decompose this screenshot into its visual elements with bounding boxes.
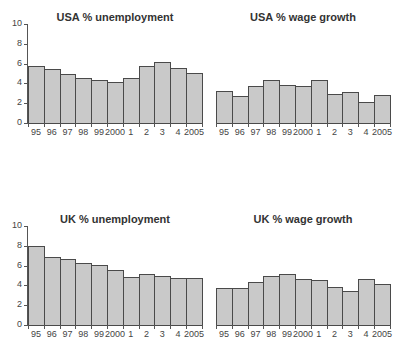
bar	[311, 280, 328, 326]
bar	[75, 263, 92, 326]
chart-title: UK % wage growth	[253, 213, 352, 225]
bar	[139, 274, 156, 326]
bar	[311, 80, 328, 124]
bar	[216, 288, 233, 326]
bar	[263, 80, 280, 124]
bar	[60, 259, 77, 326]
x-tick-label: 2005	[370, 127, 394, 137]
y-tick	[24, 123, 27, 124]
bar	[248, 282, 265, 326]
bar	[139, 66, 156, 124]
y-tick-label: 6	[8, 58, 22, 68]
bar	[123, 78, 140, 124]
y-tick-label: 6	[8, 260, 22, 270]
bar	[216, 91, 233, 124]
chart-title: USA % unemployment	[57, 11, 174, 23]
bar	[279, 85, 296, 124]
bar	[28, 66, 45, 124]
y-tick	[24, 325, 27, 326]
y-tick	[24, 64, 27, 65]
y-tick-label: 10	[8, 220, 22, 230]
y-tick	[24, 103, 27, 104]
bar	[91, 80, 108, 124]
y-tick	[24, 285, 27, 286]
bar	[327, 287, 344, 326]
bar	[263, 276, 280, 327]
y-tick-label: 2	[8, 299, 22, 309]
bar	[295, 86, 312, 124]
y-tick-label: 10	[8, 18, 22, 28]
bar	[154, 62, 171, 124]
y-tick-label: 4	[8, 279, 22, 289]
y-tick-label: 0	[8, 319, 22, 329]
bar	[374, 95, 391, 124]
y-tick-label: 8	[8, 38, 22, 48]
y-tick	[24, 305, 27, 306]
bar	[186, 73, 203, 124]
bar	[107, 82, 124, 124]
x-tick-label: 2005	[182, 329, 206, 339]
y-tick-label: 8	[8, 240, 22, 250]
bar	[91, 265, 108, 326]
bar	[44, 69, 61, 124]
bar	[75, 78, 92, 124]
bar	[123, 277, 140, 326]
y-tick-label: 4	[8, 77, 22, 87]
bar	[28, 246, 45, 326]
y-tick	[24, 24, 27, 25]
bar	[232, 288, 249, 326]
x-tick-label: 2005	[370, 329, 394, 339]
bar	[327, 94, 344, 124]
bar	[342, 291, 359, 326]
bar	[186, 278, 203, 326]
chart-title: USA % wage growth	[250, 11, 356, 23]
y-tick	[24, 83, 27, 84]
bar	[358, 102, 375, 124]
y-tick-label: 2	[8, 97, 22, 107]
bar	[279, 274, 296, 326]
y-tick-label: 0	[8, 117, 22, 127]
bar	[342, 92, 359, 124]
bar	[358, 279, 375, 326]
bar	[44, 257, 61, 326]
bar	[170, 68, 187, 124]
bar	[248, 86, 265, 124]
bar	[232, 96, 249, 124]
bar	[374, 284, 391, 326]
bar	[107, 270, 124, 326]
chart-title: UK % unemployment	[60, 213, 170, 225]
bar	[154, 276, 171, 326]
bar	[170, 278, 187, 326]
bar	[60, 74, 77, 124]
y-tick	[24, 226, 27, 227]
x-tick-label: 2005	[182, 127, 206, 137]
bar	[295, 279, 312, 326]
y-tick	[24, 266, 27, 267]
y-tick	[24, 44, 27, 45]
y-tick	[24, 246, 27, 247]
